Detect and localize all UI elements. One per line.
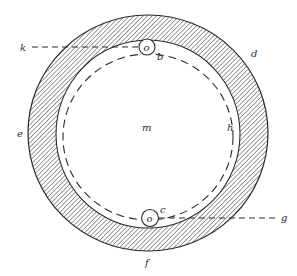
label-b: b [157,51,163,62]
ring-diagram: k o b d e m h o c g f [0,0,297,276]
label-o-top: o [144,42,150,53]
label-d: d [251,48,257,59]
label-c: c [160,204,166,215]
label-g: g [281,212,287,223]
label-e: e [17,128,23,139]
label-h: h [227,122,233,133]
label-o-bottom: o [147,213,153,224]
label-f: f [144,257,151,268]
label-k: k [20,42,26,53]
label-m: m [142,122,151,133]
